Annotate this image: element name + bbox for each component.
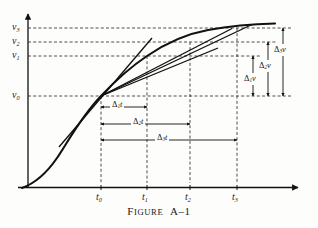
caption-number: A–1	[170, 205, 191, 217]
y-tick-v0-sub: 0	[16, 94, 19, 101]
delta1v-base: v	[252, 73, 256, 83]
delta2t-label: Δ2t	[131, 117, 145, 127]
y-tick-v3-sub: 3	[16, 26, 19, 33]
delta3v-label: Δ3v	[273, 44, 287, 56]
horizontal-guides	[28, 28, 291, 96]
caption-word: IGURE	[134, 207, 163, 217]
secant-to-t3	[101, 25, 252, 97]
secant-to-t1	[101, 48, 218, 96]
delta2v-label: Δ2v	[258, 60, 272, 72]
delta2v-base: v	[267, 60, 271, 70]
secant-lines	[101, 25, 252, 97]
secant-to-t2	[101, 29, 232, 97]
delta3t-base: t	[165, 132, 167, 142]
y-tick-label-v3: v3	[12, 22, 20, 33]
y-tick-label-v2: v2	[12, 36, 20, 47]
x-tick-t3-sub: 3	[235, 196, 238, 203]
x-tick-label-t0: t0	[96, 192, 102, 203]
figure-container: v3 v2 v1 v0 t0 t1 t2 t3 Δ1t Δ2t Δ3t Δ1v …	[0, 0, 318, 228]
x-tick-t2-sub: 2	[188, 196, 191, 203]
y-tick-v1-sub: 1	[16, 54, 19, 61]
axis-lines	[18, 14, 298, 188]
delta3t-label: Δ3t	[155, 133, 169, 143]
caption-initial: F	[127, 205, 134, 217]
figure-drawing	[0, 0, 318, 228]
y-tick-label-v1: v1	[12, 50, 20, 61]
delta1v-label: Δ1v	[243, 73, 257, 85]
x-tick-label-t2: t2	[185, 192, 191, 203]
figure-caption: FIGURE A–1	[0, 205, 318, 217]
delta1t-label: Δ1t	[110, 100, 124, 110]
y-tick-v2-sub: 2	[16, 40, 19, 47]
delta2t-base: t	[141, 116, 143, 126]
delta1t-base: t	[120, 99, 122, 109]
x-tick-t1-sub: 1	[145, 196, 148, 203]
x-tick-t0-sub: 0	[99, 196, 102, 203]
x-tick-label-t3: t3	[232, 192, 238, 203]
y-tick-label-v0: v0	[12, 90, 20, 101]
x-tick-label-t1: t1	[142, 192, 148, 203]
delta3v-base: v	[282, 44, 286, 54]
